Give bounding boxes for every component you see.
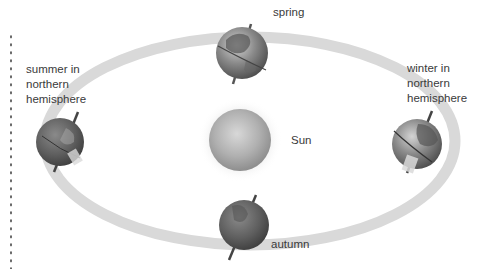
sun xyxy=(198,98,282,182)
earth-globe-winter xyxy=(392,111,442,174)
label-winter: winter in northern hemisphere xyxy=(407,61,467,106)
label-sun: Sun xyxy=(291,133,311,148)
orbit-diagram xyxy=(0,0,485,269)
label-spring: spring xyxy=(273,5,304,20)
label-summer: summer in northern hemisphere xyxy=(26,62,86,107)
label-autumn: autumn xyxy=(271,237,309,252)
